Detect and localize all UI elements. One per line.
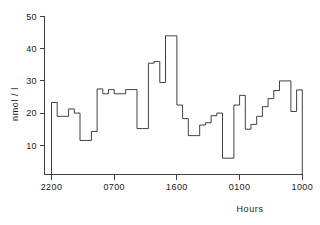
y-axis-title: nmol / l [10, 87, 20, 121]
y-tick-label-30: 30 [26, 76, 37, 86]
y-tick-label-50: 50 [26, 12, 37, 22]
y-tick-label-40: 40 [26, 44, 37, 54]
x-tick-label-0100: 0100 [229, 182, 251, 192]
x-axis-title: Hours [236, 204, 263, 214]
x-tick-label-1000: 1000 [291, 182, 313, 192]
y-tick-label-10: 10 [26, 141, 37, 151]
x-tick-label-2200: 2200 [41, 182, 63, 192]
x-tick-label-1600: 1600 [166, 182, 188, 192]
chart-figure: 50 40 30 20 10 2200 0700 1600 0100 1000 … [0, 0, 320, 225]
step-chart-svg: 50 40 30 20 10 2200 0700 1600 0100 1000 … [0, 0, 320, 225]
y-tick-label-20: 20 [26, 108, 37, 118]
x-tick-label-0700: 0700 [103, 182, 125, 192]
